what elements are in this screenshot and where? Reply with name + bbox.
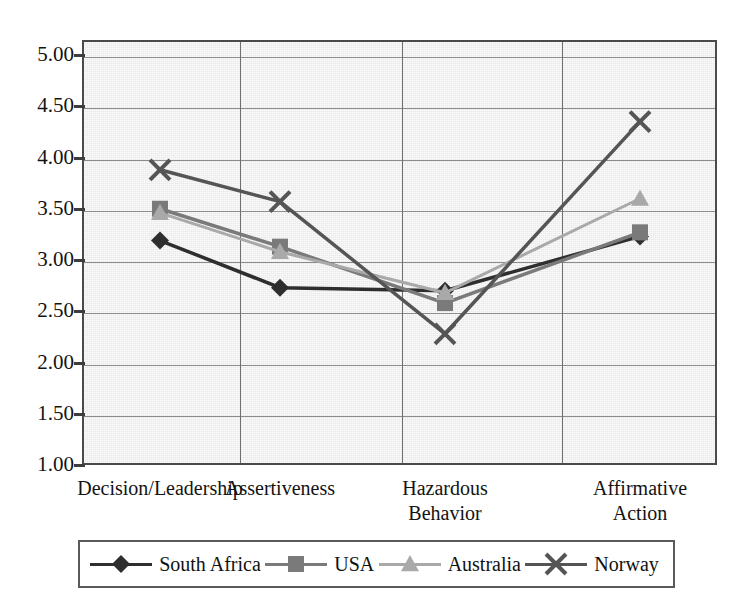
gridline-5-00 xyxy=(84,57,715,58)
y-axis-tick-mark xyxy=(74,54,85,57)
gridline-4-50 xyxy=(84,108,715,109)
y-axis-tick-mark xyxy=(74,413,85,416)
y-axis-tick-mark xyxy=(74,208,85,211)
legend-marker-glyph xyxy=(543,552,569,576)
x-axis-category-label-line: Hazardous xyxy=(365,476,525,501)
x-axis-category-label-line: Action xyxy=(560,501,720,526)
triangle-marker xyxy=(379,553,441,575)
diamond-marker xyxy=(90,553,152,575)
gridline-3-00 xyxy=(84,262,715,263)
y-axis-tick-label: 4.50 xyxy=(8,95,74,116)
legend-marker-glyph xyxy=(283,552,309,576)
y-axis-tick-mark xyxy=(74,157,85,160)
y-axis-tick-label: 4.00 xyxy=(8,147,74,168)
category-divider-3 xyxy=(562,42,563,463)
gridline-2-50 xyxy=(84,313,715,314)
cross-marker xyxy=(525,553,587,575)
y-axis-tick-label: 3.50 xyxy=(8,198,74,219)
y-axis-tick-mark xyxy=(74,310,85,313)
gridline-4-00 xyxy=(84,160,715,161)
gridline-1-50 xyxy=(84,416,715,417)
category-divider-1 xyxy=(240,42,241,463)
y-axis-tick-label: 2.00 xyxy=(8,352,74,373)
legend-label: Australia xyxy=(448,554,521,574)
y-axis: 5.004.504.003.503.002.502.001.501.00 xyxy=(0,0,74,613)
legend-label: South Africa xyxy=(159,554,261,574)
y-axis-tick-label: 3.00 xyxy=(8,249,74,270)
x-axis-category-label-line: Assertiveness xyxy=(185,476,375,501)
y-axis-tick-label: 1.50 xyxy=(8,403,74,424)
x-axis-category-label-line: Affirmative xyxy=(560,476,720,501)
x-axis-category-label-line: Behavior xyxy=(365,501,525,526)
gridline-2-00 xyxy=(84,365,715,366)
y-axis-tick-mark xyxy=(74,362,85,365)
y-axis-tick-mark xyxy=(74,105,85,108)
y-axis-tick-label: 2.50 xyxy=(8,300,74,321)
legend-entry-south-africa[interactable]: South Africa xyxy=(90,553,265,575)
y-axis-tick-label: 5.00 xyxy=(8,44,74,65)
gridline-3-50 xyxy=(84,211,715,212)
plot-background-texture xyxy=(84,42,715,463)
x-axis-category-label: Assertiveness xyxy=(185,476,375,501)
legend-label: USA xyxy=(334,554,374,574)
line-chart: 5.004.504.003.503.002.502.001.501.00 Dec… xyxy=(0,0,751,613)
x-axis-category-label: AffirmativeAction xyxy=(560,476,720,526)
x-axis-category-label: HazardousBehavior xyxy=(365,476,525,526)
square-marker xyxy=(265,553,327,575)
legend-entry-norway[interactable]: Norway xyxy=(525,553,662,575)
category-divider-2 xyxy=(402,42,403,463)
y-axis-tick-label: 1.00 xyxy=(8,454,74,475)
legend-marker-glyph xyxy=(108,552,134,576)
chart-legend: South AfricaUSAAustraliaNorway xyxy=(78,540,675,588)
y-axis-tick-mark xyxy=(74,464,85,467)
y-axis-tick-mark xyxy=(74,259,85,262)
plot-area xyxy=(82,40,717,465)
legend-entry-australia[interactable]: Australia xyxy=(379,553,525,575)
legend-marker-glyph xyxy=(397,552,423,576)
legend-entry-usa[interactable]: USA xyxy=(265,553,378,575)
legend-label: Norway xyxy=(594,554,658,574)
